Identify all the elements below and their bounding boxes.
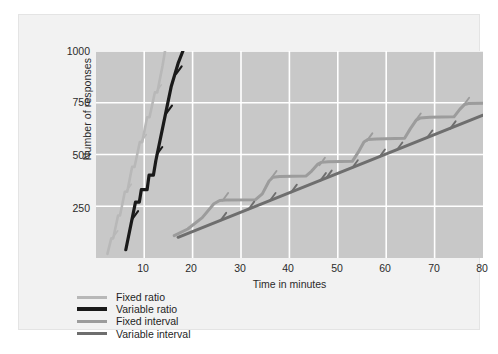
legend-swatch-fixed-ratio: [77, 296, 107, 299]
plot-area: [96, 51, 483, 258]
x-axis-tick-labels: 10 20 30 40 50 60 70 80: [19, 262, 498, 278]
legend-item-fixed-interval: Fixed interval: [77, 315, 191, 327]
hatches-fixed-interval: [223, 98, 470, 201]
x-tick-40: 40: [282, 262, 294, 274]
legend-swatch-variable-interval: [77, 332, 107, 335]
chart-canvas: [96, 51, 483, 258]
x-tick-60: 60: [379, 262, 391, 274]
x-tick-70: 70: [428, 262, 440, 274]
y-tick-250: 250: [50, 202, 90, 214]
legend-swatch-fixed-interval: [77, 320, 107, 323]
legend-swatch-variable-ratio: [77, 307, 107, 311]
gridlines: [96, 51, 483, 258]
x-tick-10: 10: [137, 262, 149, 274]
legend-item-fixed-ratio: Fixed ratio: [77, 291, 191, 303]
legend-label-variable-ratio: Variable ratio: [116, 303, 177, 315]
legend-label-fixed-interval: Fixed interval: [116, 315, 178, 327]
legend-label-fixed-ratio: Fixed ratio: [116, 291, 165, 303]
x-tick-30: 30: [234, 262, 246, 274]
series-variable-interval: [178, 115, 483, 237]
series-fixed-interval: [174, 103, 483, 235]
y-tick-500: 500: [50, 149, 90, 161]
chart-legend: Fixed ratio Variable ratio Fixed interva…: [77, 291, 191, 340]
legend-item-variable-ratio: Variable ratio: [77, 303, 191, 315]
y-tick-1000: 1000: [50, 45, 90, 57]
figure-card: Number of responses 1000 750 500 250 10 …: [18, 14, 480, 330]
x-axis-title: Time in minutes: [96, 278, 483, 290]
series-variable-ratio: [126, 51, 183, 250]
x-tick-50: 50: [331, 262, 343, 274]
x-tick-80: 80: [476, 262, 488, 274]
x-tick-20: 20: [185, 262, 197, 274]
legend-item-variable-interval: Variable interval: [77, 328, 191, 340]
legend-label-variable-interval: Variable interval: [116, 328, 191, 340]
figure-root: Number of responses 1000 750 500 250 10 …: [0, 0, 498, 354]
y-tick-750: 750: [50, 96, 90, 108]
